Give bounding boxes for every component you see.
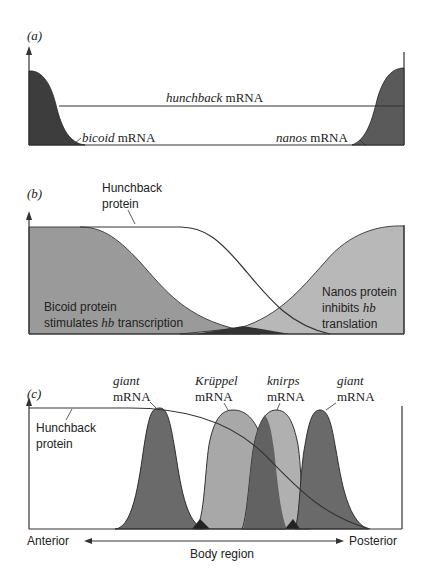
hunchback-protein-label-1: Hunchback xyxy=(102,181,163,195)
nanos-mrna-label: nanos mRNA xyxy=(276,130,348,145)
giant-mrna-1-label: giant xyxy=(113,373,140,388)
hunchback-mrna-label: hunchback mRNA xyxy=(166,90,264,105)
axis-arrow-icon xyxy=(26,46,32,55)
panel-a: (a) hunchback mRNA bicoid mRNA nanos mRN… xyxy=(26,28,404,146)
axis-arrow-icon xyxy=(26,211,32,220)
giant-mrna-2-sub: mRNA xyxy=(337,389,375,404)
panel-b: (b) Hunchback protein Bicoid protein sti… xyxy=(26,181,404,334)
kruppel-mrna-label: Krüppel xyxy=(194,373,238,388)
panel-b-label: (b) xyxy=(27,186,42,201)
hunchback-protein-label-2: protein xyxy=(36,437,73,451)
gradient-diagram: (a) hunchback mRNA bicoid mRNA nanos mRN… xyxy=(0,0,428,580)
hunchback-pointer xyxy=(128,210,135,224)
panel-c: (c) Hunchback protein giant mRNA Krüppel… xyxy=(26,373,402,561)
nanos-protein-label-2: inhibits hb xyxy=(322,300,376,315)
hunchback-pointer xyxy=(66,409,72,420)
giant-pointer xyxy=(326,403,336,410)
body-region-label: Body region xyxy=(190,547,254,561)
kruppel-pointer xyxy=(224,403,228,410)
nanos-protein-label-1: Nanos protein xyxy=(322,285,397,299)
giant-mrna-2-curve xyxy=(295,410,368,529)
bicoid-protein-label-1: Bicoid protein xyxy=(44,300,117,314)
anterior-label: Anterior xyxy=(27,534,69,548)
hunchback-protein-label-1: Hunchback xyxy=(36,421,97,435)
bicoid-protein-label-2: stimulates hb transcription xyxy=(44,315,183,330)
panel-a-label: (a) xyxy=(27,28,42,43)
hunchback-protein-label-2: protein xyxy=(102,197,139,211)
nanos-protein-label-3: translation xyxy=(322,317,377,331)
arrow-left-icon xyxy=(84,538,92,544)
kruppel-mrna-sub: mRNA xyxy=(195,389,233,404)
giant-mrna-1-curve xyxy=(115,408,205,529)
knirps-mrna-label: knirps xyxy=(267,373,300,388)
giant-pointer xyxy=(150,402,156,408)
bicoid-mrna-curve xyxy=(29,71,85,145)
giant-mrna-2-label: giant xyxy=(337,373,364,388)
bicoid-mrna-label: bicoid mRNA xyxy=(82,130,156,145)
knirps-pointer xyxy=(277,403,280,410)
knirps-mrna-sub: mRNA xyxy=(267,389,305,404)
giant-mrna-1-sub: mRNA xyxy=(113,389,151,404)
posterior-label: Posterior xyxy=(349,534,397,548)
arrow-right-icon xyxy=(336,538,344,544)
